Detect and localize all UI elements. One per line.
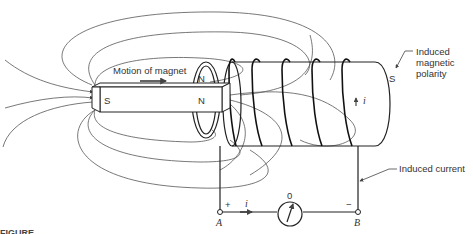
current-pointer-icon [360,169,397,181]
figure-caption: FIGURE [0,228,34,234]
diagram-canvas: N S N Motion of magnet S Induced magneti… [0,0,473,234]
induced-current-label: Induced current [399,163,465,174]
far-end-pole-label: S [389,73,395,84]
motion-label: Motion of magnet [113,65,187,76]
galvanometer: 0 [278,190,302,226]
coil-current-label: i [363,95,366,106]
terminal-a [218,210,223,215]
terminal-b-label: B [354,217,360,228]
polarity-label-2: magnetic [416,57,455,68]
galvanometer-zero: 0 [287,190,292,201]
polarity-label-3: polarity [416,68,447,79]
minus-sign: − [346,199,352,210]
circuit-current-label: i [245,198,248,209]
polarity-pointer-icon [396,51,413,68]
polarity-label-1: Induced [416,46,450,57]
bar-magnet: S N [92,83,230,112]
plus-sign: + [225,199,231,210]
ring-pole-label: N [198,73,205,84]
magnet-north-label: N [198,95,205,106]
terminal-b [356,210,361,215]
faraday-induction-diagram: N S N Motion of magnet S Induced magneti… [0,0,473,234]
terminal-a-label: A [215,217,223,228]
magnet-south-label: S [104,95,110,106]
